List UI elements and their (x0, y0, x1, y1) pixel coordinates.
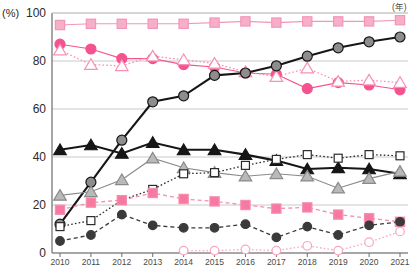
marker-gray-filled-circle-2018 (302, 51, 312, 61)
marker-white-open-square-2016 (241, 161, 249, 169)
marker-pink-filled-square-2016 (241, 200, 250, 209)
marker-pink-open-triangle-2020 (363, 74, 376, 85)
marker-white-open-square-2011 (87, 217, 95, 225)
marker-pink-filled-circle-2018 (302, 84, 312, 94)
marker-light-pink-square-2013 (148, 19, 157, 28)
x-axis-label-2017: 2017 (259, 257, 293, 267)
marker-gray-filled-circle-2017 (271, 61, 281, 71)
series-line-white-open-square (60, 155, 400, 227)
series-line-pink-filled-square (60, 193, 400, 222)
x-axis-label-2014: 2014 (167, 257, 201, 267)
x-axis-label-2021: 2021 (383, 257, 416, 267)
plot-area (52, 13, 408, 253)
series-line-dark-filled-circle (60, 215, 400, 241)
x-axis-label-2018: 2018 (290, 257, 324, 267)
marker-black-triangle-2011 (85, 139, 98, 150)
y-tick-80: 80 (0, 54, 46, 68)
marker-gray-open-triangle-2013 (146, 152, 159, 163)
marker-light-pink-square-2012 (117, 19, 126, 28)
marker-dark-filled-circle-2010 (56, 237, 65, 246)
marker-white-open-square-2020 (365, 151, 373, 159)
marker-light-pink-open-circle-2018 (303, 242, 312, 251)
marker-gray-open-triangle-2019 (332, 182, 345, 193)
marker-dark-filled-circle-2014 (179, 224, 188, 233)
marker-white-open-square-2017 (272, 155, 280, 163)
x-axis-unit-label: (年) (392, 0, 407, 12)
marker-dark-filled-circle-2012 (118, 210, 127, 219)
marker-gray-filled-circle-2012 (117, 135, 127, 145)
marker-light-pink-open-circle-2020 (365, 238, 374, 247)
x-axis-label-2010: 2010 (43, 257, 77, 267)
marker-light-pink-open-circle-2015 (210, 246, 219, 255)
y-tick-20: 20 (0, 198, 46, 212)
marker-dark-filled-circle-2011 (87, 231, 96, 240)
marker-pink-open-triangle-2018 (301, 62, 314, 73)
marker-pink-filled-square-2015 (210, 197, 219, 206)
marker-dark-filled-circle-2020 (365, 221, 374, 230)
marker-pink-open-triangle-2011 (85, 59, 98, 70)
series-line-gray-open-triangle (60, 158, 400, 195)
marker-pink-filled-square-2014 (179, 194, 188, 203)
marker-white-open-square-2015 (211, 169, 219, 177)
marker-gray-filled-circle-2014 (179, 91, 189, 101)
y-tick-100: 100 (0, 6, 46, 20)
x-axis-label-2020: 2020 (352, 257, 386, 267)
marker-light-pink-open-circle-2017 (272, 246, 281, 255)
marker-gray-open-triangle-2017 (270, 168, 283, 179)
marker-pink-filled-square-2019 (334, 210, 343, 219)
marker-pink-filled-square-2010 (55, 205, 64, 214)
marker-gray-filled-circle-2013 (148, 97, 158, 107)
marker-white-open-square-2021 (396, 152, 404, 160)
x-axis-label-2019: 2019 (321, 257, 355, 267)
marker-pink-filled-square-2012 (117, 196, 126, 205)
marker-light-pink-open-circle-2021 (396, 227, 405, 236)
x-axis-label-2016: 2016 (228, 257, 262, 267)
marker-black-triangle-2013 (146, 137, 159, 148)
marker-light-pink-square-2014 (179, 19, 188, 28)
marker-light-pink-square-2010 (55, 20, 64, 29)
y-tick-0: 0 (0, 246, 46, 260)
marker-dark-filled-circle-2016 (241, 220, 250, 229)
marker-pink-filled-square-2017 (272, 204, 281, 213)
chart-svg (52, 13, 408, 253)
marker-pink-open-triangle-2014 (177, 54, 190, 65)
chart-container: (%) 100 80 60 40 20 0 201020112012201320… (0, 0, 416, 273)
x-axis-label-2011: 2011 (74, 257, 108, 267)
marker-white-open-square-2014 (180, 170, 188, 178)
marker-light-pink-open-circle-2016 (241, 245, 250, 254)
y-axis-labels: 100 80 60 40 20 0 (0, 0, 48, 273)
y-tick-60: 60 (0, 102, 46, 116)
marker-white-open-square-2018 (303, 151, 311, 159)
marker-gray-open-triangle-2012 (116, 174, 129, 185)
marker-gray-filled-circle-2015 (210, 70, 220, 80)
marker-dark-filled-circle-2015 (210, 224, 219, 233)
marker-white-open-square-2019 (334, 154, 342, 162)
marker-light-pink-square-2017 (272, 18, 281, 27)
marker-gray-filled-circle-2020 (364, 37, 374, 47)
x-axis-label-2012: 2012 (105, 257, 139, 267)
marker-dark-filled-circle-2013 (148, 221, 157, 230)
x-axis-labels: 2010201120122013201420152016201720182019… (52, 255, 408, 273)
marker-light-pink-square-2021 (395, 16, 404, 25)
x-axis-label-2015: 2015 (198, 257, 232, 267)
marker-light-pink-square-2015 (210, 18, 219, 27)
series-line-light-pink-square (60, 20, 400, 25)
marker-dark-filled-circle-2017 (272, 233, 281, 242)
y-tick-40: 40 (0, 150, 46, 164)
marker-pink-open-triangle-2015 (208, 58, 221, 69)
marker-gray-filled-circle-2016 (240, 68, 250, 78)
marker-light-pink-square-2011 (86, 19, 95, 28)
marker-gray-filled-circle-2019 (333, 43, 343, 53)
marker-light-pink-open-circle-2014 (179, 246, 188, 255)
marker-dark-filled-circle-2018 (303, 222, 312, 231)
marker-light-pink-square-2019 (334, 17, 343, 26)
marker-pink-filled-square-2011 (86, 198, 95, 207)
marker-dark-filled-circle-2019 (334, 231, 343, 240)
marker-light-pink-open-circle-2019 (334, 246, 343, 255)
marker-gray-filled-circle-2021 (395, 32, 405, 42)
marker-pink-filled-square-2018 (303, 203, 312, 212)
marker-light-pink-square-2018 (303, 17, 312, 26)
marker-white-open-square-2010 (56, 223, 64, 231)
marker-dark-filled-circle-2021 (396, 218, 405, 227)
marker-gray-open-triangle-2021 (394, 166, 407, 177)
